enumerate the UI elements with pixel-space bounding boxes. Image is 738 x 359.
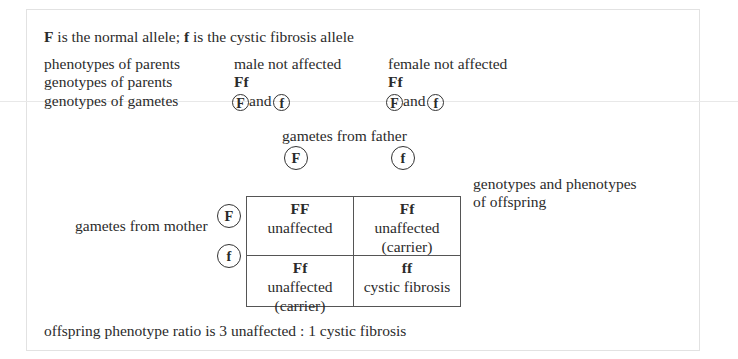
allele-definition: F is the normal allele; f is the cystic … [44,28,354,45]
mother-gamete-circle-icon: F [217,204,241,228]
father-gamete-circle-icon: f [391,146,415,170]
cell-genotype: Ff [354,199,460,218]
cell-phenotype: unaffected [247,218,353,237]
genotypes-label: genotypes of parents [44,73,172,90]
gamete-circle-icon: f [273,94,290,111]
cell-phenotype: unaffected [354,218,460,237]
female-genotype: Ff [388,73,403,90]
mother-gamete-circle-icon: f [217,244,241,268]
punnett-cell: ff cystic fibrosis [354,256,460,306]
offspring-label-line2: of offspring [473,193,546,210]
phenotypes-label: phenotypes of parents [44,55,180,72]
male-phenotype: male not affected [234,55,341,72]
cell-phenotype: unaffected [247,277,353,296]
normal-allele-text: is the normal allele; [53,28,183,45]
male-gametes: Fandf [232,92,290,111]
cell-note: (carrier) [354,237,460,256]
gamete-circle-icon: F [386,94,403,111]
cell-genotype: FF [247,199,353,218]
gamete-circle-icon: f [427,94,444,111]
male-genotype: Ff [234,73,249,90]
phenotype-ratio: offspring phenotype ratio is 3 unaffecte… [44,322,406,339]
punnett-cell: Ff unaffected (carrier) [354,197,460,256]
cell-genotype: ff [354,258,460,277]
punnett-cell: FF unaffected [247,197,354,256]
female-phenotype: female not affected [388,55,507,72]
cell-phenotype: cystic fibrosis [354,277,460,296]
and-text: and [249,92,271,109]
punnett-square: FF unaffected Ff unaffected (carrier) Ff… [246,196,461,307]
father-gametes-label: gametes from father [282,127,407,144]
mother-gametes-label: gametes from mother [75,217,208,234]
cell-genotype: Ff [247,258,353,277]
cell-note: (carrier) [247,296,353,315]
cf-allele-text: is the cystic fibrosis allele [189,28,354,45]
female-gametes: Fandf [386,92,444,111]
and-text: and [403,92,425,109]
father-gamete-circle-icon: F [284,146,308,170]
punnett-cell: Ff unaffected (carrier) [247,256,354,306]
gametes-label: genotypes of gametes [44,92,178,109]
gamete-circle-icon: F [232,94,249,111]
offspring-label-line1: genotypes and phenotypes [473,175,637,192]
